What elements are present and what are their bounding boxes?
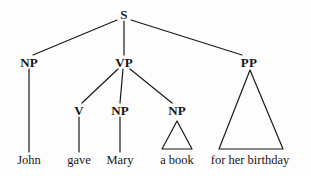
constituent-triangle [162, 121, 192, 149]
tree-edge [120, 69, 123, 103]
tree-leaf-mary: Mary [106, 154, 133, 167]
tree-leaf-a-book: a book [160, 154, 194, 167]
constituent-triangle [219, 70, 283, 149]
tree-node-s: S [120, 8, 127, 21]
tree-node-np1: NP [20, 56, 38, 69]
edge-group [29, 20, 242, 152]
syntax-tree-diagram: SNPVPPPVNPNP JohngaveMarya bookfor her b… [0, 0, 311, 176]
tree-edges-layer [0, 0, 311, 176]
tree-node-vp: VP [115, 56, 133, 69]
tree-node-v: V [74, 104, 84, 117]
tree-leaf-birthday: for her birthday [211, 154, 289, 167]
tree-edge [131, 20, 242, 55]
tree-node-pp: PP [241, 56, 257, 69]
tree-node-np3: NP [168, 104, 186, 117]
tree-edge [82, 69, 118, 103]
tree-node-np2: NP [111, 104, 129, 117]
tree-edge [130, 69, 172, 103]
tree-edge [33, 20, 117, 55]
tree-leaf-gave: gave [67, 154, 91, 167]
tree-leaf-john: John [17, 154, 41, 167]
